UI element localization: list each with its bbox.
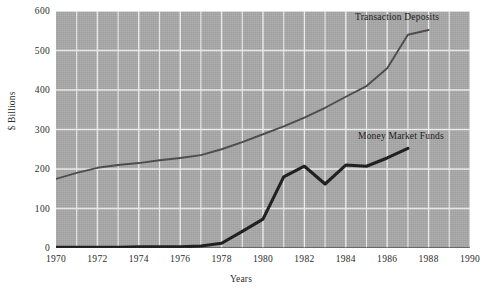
y-axis-title: $ Billions <box>7 71 17 151</box>
chart-container: 0100200300400500600 $ Billions Years 197… <box>0 0 482 297</box>
x-tick-label: 1984 <box>336 254 356 264</box>
x-tick-label: 1970 <box>46 254 66 264</box>
x-axis-title: Years <box>0 274 482 284</box>
y-tick-label: 100 <box>10 204 50 214</box>
x-tick-label: 1974 <box>129 254 149 264</box>
x-tick-label: 1972 <box>87 254 107 264</box>
x-tick-label: 1978 <box>211 254 231 264</box>
series-label-money-market-funds: Money Market Funds <box>358 131 444 141</box>
series-line-money-market-funds <box>56 148 408 247</box>
plot-svg <box>56 11 470 248</box>
y-tick-label: 500 <box>10 46 50 56</box>
y-tick-label: 200 <box>10 164 50 174</box>
y-tick-label: 600 <box>10 6 50 16</box>
plot-area <box>56 11 470 248</box>
y-tick-label: 0 <box>10 243 50 253</box>
x-tick-label: 1986 <box>377 254 397 264</box>
x-tick-label: 1990 <box>460 254 480 264</box>
x-tick-label: 1988 <box>418 254 438 264</box>
x-tick-label: 1980 <box>253 254 273 264</box>
x-tick-label: 1976 <box>170 254 190 264</box>
series-label-transaction-deposits: Transaction Deposits <box>355 12 439 22</box>
x-tick-label: 1982 <box>294 254 314 264</box>
